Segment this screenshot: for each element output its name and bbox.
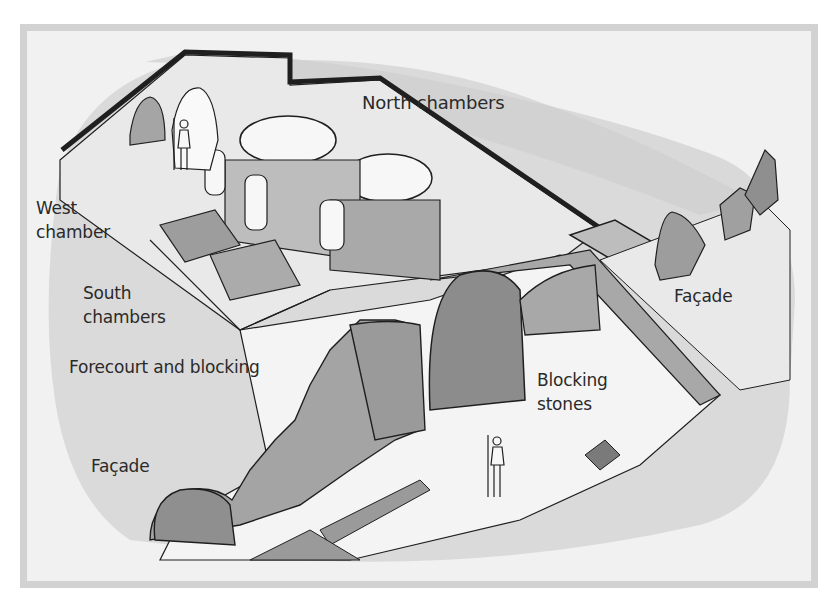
label-facade-right: Façade [674,286,732,307]
label-blocking-stones-line2: stones [537,394,592,415]
label-south-chambers-line2: chambers [83,307,166,328]
label-west-chamber-line1: West [36,198,77,219]
label-blocking-stones-line1: Blocking [537,370,608,391]
label-forecourt-and-blocking: Forecourt and blocking [69,357,260,378]
north-chamber-walls-2 [330,200,440,280]
label-south-chambers-line1: South [83,283,131,304]
upright-stone-2 [245,175,267,230]
label-north-chambers: North chambers [362,92,504,113]
upright-stone-3 [320,200,344,250]
facade-boulder-left [154,489,235,545]
label-facade-left: Façade [91,456,149,477]
label-west-chamber-line2: chamber [36,222,110,243]
capstone-1 [240,116,336,164]
